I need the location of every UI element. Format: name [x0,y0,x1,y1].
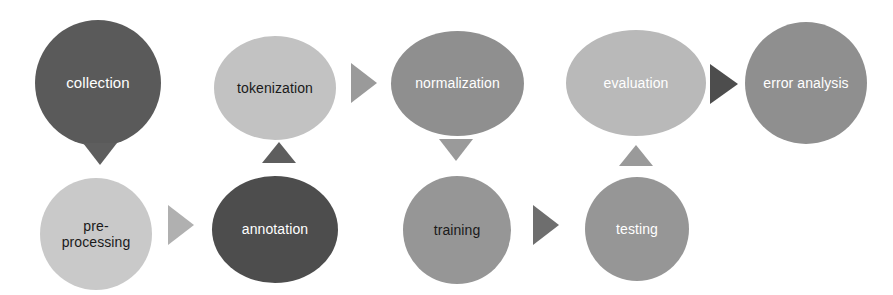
arrow-normalization-to-training [439,139,473,161]
arrow-evaluation-to-error-analysis [710,64,738,104]
node-label-error-analysis: error analysis [759,75,852,91]
node-pre-processing[interactable]: pre- processing [40,178,152,290]
node-collection[interactable]: collection [35,20,161,146]
node-training[interactable]: training [403,176,511,284]
arrow-tokenization-to-normalization [351,63,377,103]
arrow-pre-processing-to-annotation [168,205,194,245]
node-evaluation[interactable]: evaluation [566,30,706,136]
node-tokenization[interactable]: tokenization [214,36,336,140]
node-normalization[interactable]: normalization [391,31,524,136]
arrow-training-to-testing [533,205,559,245]
node-label-training: training [430,222,485,238]
node-label-evaluation: evaluation [600,75,673,91]
arrow-annotation-to-tokenization [262,142,296,163]
node-testing[interactable]: testing [585,177,689,281]
arrow-collection-to-pre-processing [83,143,117,165]
node-label-tokenization: tokenization [233,80,317,96]
node-label-annotation: annotation [238,221,312,237]
arrow-testing-to-evaluation [619,145,653,166]
node-label-normalization: normalization [411,75,504,91]
node-label-collection: collection [62,74,134,91]
pipeline-diagram: collectionpre- processingtokenizationann… [0,0,893,295]
node-label-pre-processing: pre- processing [58,218,135,250]
node-annotation[interactable]: annotation [212,176,338,283]
node-error-analysis[interactable]: error analysis [745,22,867,144]
node-label-testing: testing [612,221,662,237]
